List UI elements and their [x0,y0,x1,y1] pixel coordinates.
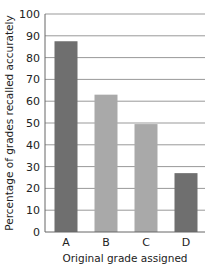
y-tick-label: 70 [26,73,40,86]
x-axis-label: Original grade assigned [62,252,187,264]
y-tick-label: 0 [33,226,40,239]
bar-c [135,124,158,232]
bars [55,41,198,232]
y-axis-ticks: 0102030405060708090100 [19,8,40,239]
bar-b [95,95,118,232]
y-tick-label: 40 [26,139,40,152]
y-tick-label: 100 [19,8,40,21]
y-tick-label: 80 [26,52,40,65]
y-tick-label: 10 [26,204,40,217]
y-axis-label: Percentage of grades recalled accurately [3,15,15,230]
x-tick-label: C [142,236,150,249]
x-tick-label: B [102,236,110,249]
y-tick-label: 20 [26,182,40,195]
x-axis-ticks: ABCD [62,236,190,249]
bar-chart: 0102030405060708090100 ABCD Original gra… [0,0,222,272]
bar-d [175,173,198,232]
y-tick-label: 90 [26,30,40,43]
y-tick-label: 50 [26,117,40,130]
y-tick-label: 60 [26,95,40,108]
bar-a [55,41,78,232]
y-tick-label: 30 [26,161,40,174]
x-tick-label: D [182,236,190,249]
x-tick-label: A [62,236,70,249]
